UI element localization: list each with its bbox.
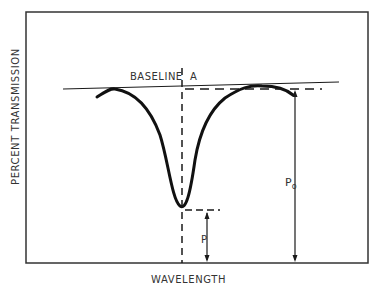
point-a-label: A	[190, 71, 197, 82]
po-arrow	[293, 90, 298, 262]
absorption-curve	[97, 86, 293, 207]
x-axis-label: WAVELENGTH	[151, 274, 226, 285]
baseline-label: BASELINE	[130, 71, 183, 82]
plot-frame	[26, 12, 368, 263]
baseline-line	[63, 82, 339, 89]
p-label: P	[201, 234, 207, 245]
p0-subscript: o	[292, 182, 297, 191]
absorption-diagram: BASELINE A P Po WAVELENGTH PERCENT TRANS…	[0, 0, 376, 292]
y-axis-label: PERCENT TRANSMISSION	[10, 48, 21, 185]
